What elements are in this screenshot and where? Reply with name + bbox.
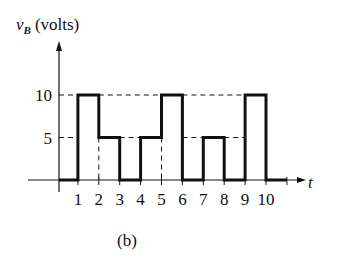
signal-waveform <box>59 95 287 180</box>
x-tick-label: 3 <box>115 190 124 209</box>
step-chart: vB(volts) t (b) 12345678910510 <box>0 0 342 271</box>
waveform-path <box>59 95 287 180</box>
x-tick-label: 4 <box>136 190 145 209</box>
x-tick-label: 10 <box>258 190 275 209</box>
x-axis-arrow-icon <box>297 177 306 183</box>
figure-caption: (b) <box>117 231 137 250</box>
x-tick-label: 6 <box>178 190 187 209</box>
x-tick-label: 8 <box>220 190 229 209</box>
x-tick-label: 7 <box>199 190 208 209</box>
y-axis-label: vB(volts) <box>16 15 79 36</box>
x-tick-label: 1 <box>74 190 83 209</box>
y-tick-label: 5 <box>44 129 53 148</box>
y-tick-label: 10 <box>35 86 52 105</box>
axes <box>28 41 306 192</box>
x-tick-label: 5 <box>157 190 166 209</box>
tick-labels: 12345678910510 <box>35 86 275 209</box>
x-tick-label: 9 <box>241 190 250 209</box>
x-axis-label: t <box>308 173 314 192</box>
y-axis-arrow-icon <box>56 41 62 51</box>
x-tick-label: 2 <box>95 190 104 209</box>
